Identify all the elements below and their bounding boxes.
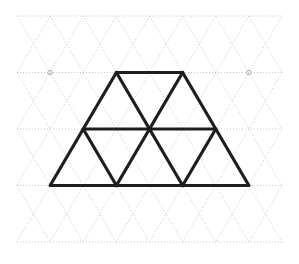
triangular-grid-figure bbox=[0, 0, 299, 264]
bold-trapezoid-layer bbox=[50, 73, 249, 186]
diagram-canvas bbox=[0, 0, 299, 264]
